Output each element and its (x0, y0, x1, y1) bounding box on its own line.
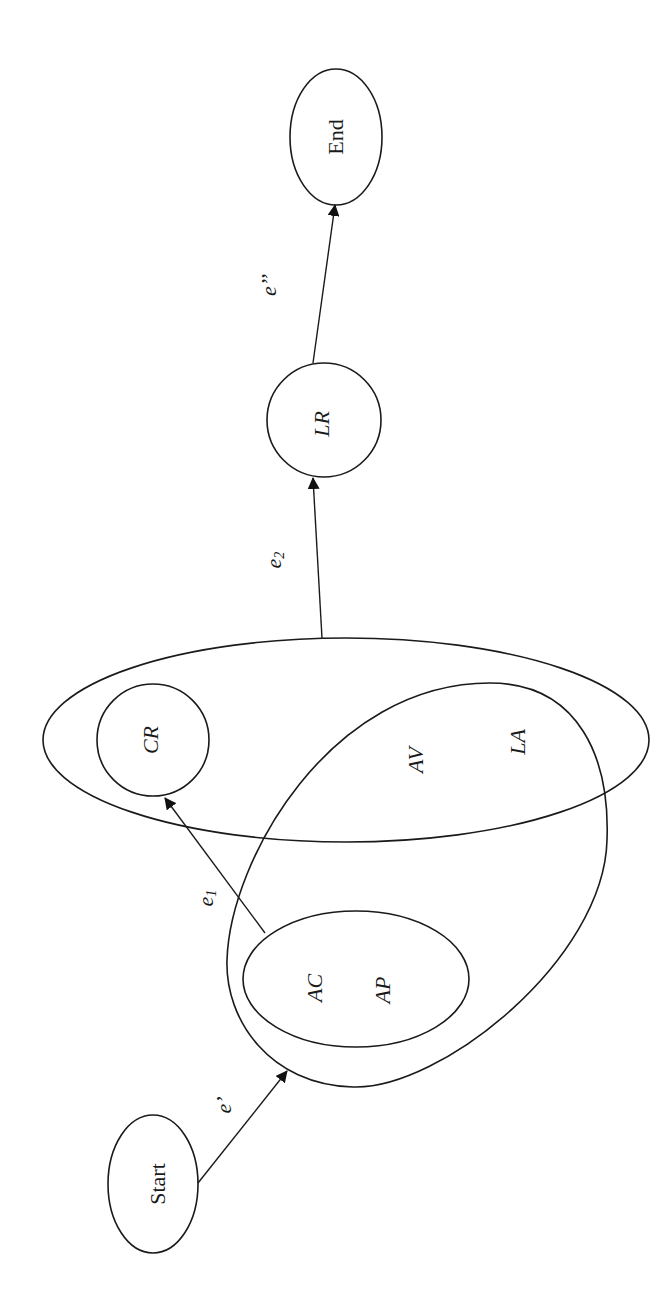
edge-label-e-double-prime: e’’ (256, 274, 281, 296)
ac-label: AC (302, 974, 327, 1004)
edge-e2 (313, 478, 322, 638)
svg-text:e’: e’ (211, 1096, 236, 1113)
svg-text:e2: e2 (261, 552, 287, 569)
state-diagram: Start End CR LR AC AP AV LA e’ e1 e2 e’’ (0, 0, 663, 1307)
cr-label: CR (138, 725, 163, 754)
ac-ap-ellipse (243, 911, 469, 1047)
la-label: LA (505, 729, 530, 756)
edge-label-e1: e1 (193, 890, 219, 907)
ap-label: AP (370, 977, 395, 1006)
edge-e-prime (198, 1071, 287, 1183)
big-ellipse-group (43, 638, 649, 842)
edge-label-e2: e2 (261, 552, 287, 569)
start-label: Start (145, 1163, 170, 1205)
edge-label-e-prime: e’ (211, 1096, 236, 1113)
av-label: AV (403, 745, 428, 775)
outer-blob-group (227, 683, 607, 1087)
svg-text:e’’: e’’ (256, 274, 281, 296)
end-label: End (323, 119, 348, 154)
lr-label: LR (309, 411, 334, 438)
edge-e-double-prime (313, 205, 335, 363)
svg-text:e1: e1 (193, 890, 219, 907)
